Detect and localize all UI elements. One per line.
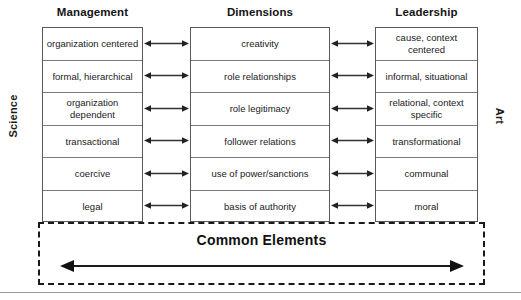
column-header-management: Management — [42, 6, 143, 18]
double-headed-arrow-icon — [331, 169, 374, 178]
connector-row-4 — [330, 125, 375, 158]
column-header-dimensions: Dimensions — [190, 6, 330, 18]
double-headed-arrow-icon — [331, 71, 374, 80]
double-headed-arrow-icon — [144, 104, 189, 113]
column-header-leadership: Leadership — [375, 6, 478, 18]
axis-label-science: Science — [7, 86, 19, 146]
double-headed-arrow-icon — [144, 136, 189, 145]
connector-row-5 — [330, 157, 375, 190]
connector-row-5 — [143, 157, 190, 190]
axis-label-art: Art — [494, 86, 506, 146]
cell-leadership-2: informal, situational — [376, 61, 477, 94]
column-dimensions: creativity role relationships role legit… — [190, 27, 330, 222]
double-headed-arrow-icon — [331, 201, 374, 210]
cell-leadership-4: transformational — [376, 126, 477, 159]
connector-row-6 — [330, 190, 375, 223]
connector-row-1 — [143, 27, 190, 60]
connector-row-2 — [143, 60, 190, 93]
cell-leadership-3: relational, context specific — [376, 93, 477, 126]
cell-management-1: organization centered — [43, 28, 142, 61]
diagram-canvas: Science Art Management Dimensions Leader… — [0, 0, 521, 300]
cell-management-5: coercive — [43, 158, 142, 191]
connector-row-2 — [330, 60, 375, 93]
double-headed-arrow-icon — [144, 39, 189, 48]
connector-row-6 — [143, 190, 190, 223]
cell-leadership-1: cause, context centered — [376, 28, 477, 61]
cell-management-6: legal — [43, 191, 142, 224]
cell-dimensions-4: follower relations — [191, 126, 329, 159]
connectors-management-dimensions — [143, 27, 190, 222]
column-management: organization centered formal, hierarchic… — [42, 27, 143, 222]
connectors-dimensions-leadership — [330, 27, 375, 222]
column-leadership: cause, context centered informal, situat… — [375, 27, 478, 222]
cell-dimensions-3: role legitimacy — [191, 93, 329, 126]
cell-dimensions-6: basis of authority — [191, 191, 329, 224]
common-elements-panel: Common Elements — [38, 222, 485, 285]
double-headed-arrow-icon — [144, 201, 189, 210]
double-headed-arrow-icon — [331, 104, 374, 113]
common-elements-label: Common Elements — [40, 232, 483, 248]
cell-management-2: formal, hierarchical — [43, 61, 142, 94]
connector-row-1 — [330, 27, 375, 60]
connector-row-4 — [143, 125, 190, 158]
double-headed-arrow-icon — [60, 258, 464, 274]
cell-management-3: organization dependent — [43, 93, 142, 126]
double-headed-arrow-icon — [144, 71, 189, 80]
cell-dimensions-2: role relationships — [191, 61, 329, 94]
connector-row-3 — [330, 92, 375, 125]
cell-leadership-5: communal — [376, 158, 477, 191]
connector-row-3 — [143, 92, 190, 125]
cell-leadership-6: moral — [376, 191, 477, 224]
common-elements-arrow-wrap — [40, 258, 483, 274]
bottom-divider — [0, 292, 521, 293]
cell-dimensions-5: use of power/sanctions — [191, 158, 329, 191]
cell-dimensions-1: creativity — [191, 28, 329, 61]
double-headed-arrow-icon — [331, 39, 374, 48]
cell-management-4: transactional — [43, 126, 142, 159]
double-headed-arrow-icon — [144, 169, 189, 178]
double-headed-arrow-icon — [331, 136, 374, 145]
